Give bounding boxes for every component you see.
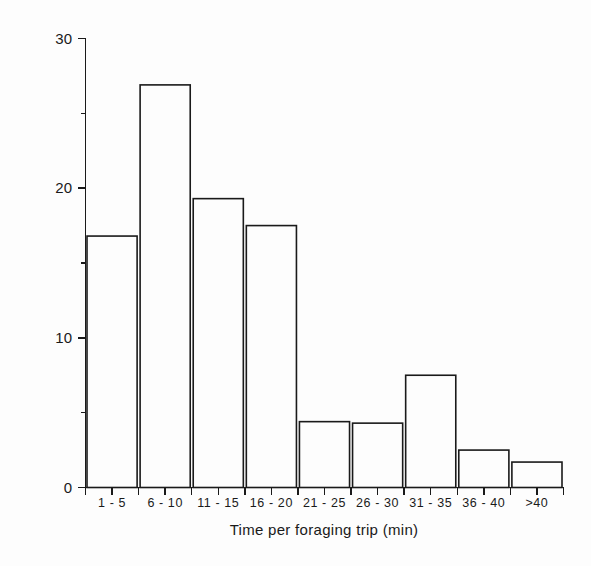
bar [353,423,403,487]
x-tick-label: 6 - 10 [139,496,192,510]
axis-tick-marks [78,39,564,495]
x-tick-label: 31 - 35 [404,496,457,510]
x-tick-label: 16 - 20 [245,496,298,510]
x-axis-tick-labels: 1 - 56 - 1011 - 1516 - 2021 - 2526 - 303… [0,496,591,518]
bar [140,85,190,488]
x-tick-label: 1 - 5 [86,496,139,510]
x-tick-label: 11 - 15 [192,496,245,510]
bar-chart-plot [0,0,591,566]
bar [406,375,456,487]
bar [512,462,562,487]
bar [246,226,296,488]
x-tick-label: 26 - 30 [351,496,404,510]
x-tick-label: 36 - 40 [457,496,510,510]
x-axis-title: Time per foraging trip (min) [85,521,563,538]
figure-canvas: Per cent of observations 0102030 1 - 56 … [0,0,591,566]
x-tick-label: >40 [510,496,563,510]
x-tick-label: 21 - 25 [298,496,351,510]
bar [193,199,243,488]
bar-series [87,85,562,488]
bar [87,236,137,487]
bar [459,450,509,487]
axis-lines [86,39,564,488]
bar [299,422,349,488]
